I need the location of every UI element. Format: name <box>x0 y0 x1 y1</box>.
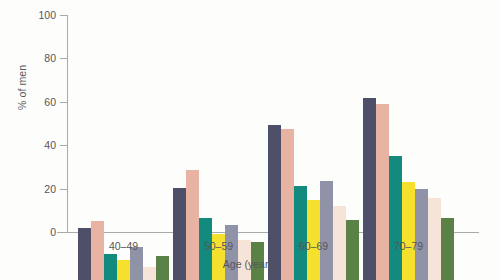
y-tick-20 <box>60 189 67 190</box>
x-tick-label-1: 50–59 <box>173 240 264 252</box>
x-tick-label-3: 70–79 <box>363 240 454 252</box>
y-tick-label-40: 40 <box>44 140 56 151</box>
y-tick-label-0: 0 <box>50 227 56 238</box>
y-tick-60 <box>60 102 67 103</box>
y-tick-40 <box>60 145 67 146</box>
y-tick-label-80: 80 <box>44 53 56 64</box>
bar <box>268 125 281 280</box>
bar <box>376 104 389 280</box>
y-tick-80 <box>60 58 67 59</box>
bar-chart: % of men 020406080100 40–4950–5960–6970–… <box>0 0 500 280</box>
x-tick-label-0: 40–49 <box>78 240 169 252</box>
y-tick-100 <box>60 15 67 16</box>
bar <box>78 228 91 280</box>
x-tick-label-2: 60–69 <box>268 240 359 252</box>
y-tick-label-100: 100 <box>38 10 56 21</box>
y-axis-label: % of men <box>16 94 28 110</box>
y-tick-label-20: 20 <box>44 184 56 195</box>
bar <box>363 98 376 280</box>
bar <box>225 225 238 280</box>
y-tick-label-60: 60 <box>44 97 56 108</box>
x-axis-label: Age (years) <box>0 258 500 270</box>
y-tick-0 <box>60 232 67 233</box>
y-axis-line <box>67 15 68 233</box>
